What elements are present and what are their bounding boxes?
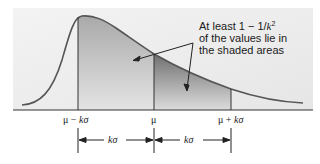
interval-right-sigma: σ xyxy=(188,134,193,145)
interval-markers xyxy=(78,128,231,153)
interval-label-left: kσ xyxy=(108,134,117,145)
chebyshev-diagram: At least 1 − 1/k2 of the values lie in t… xyxy=(0,0,320,164)
callout-line-3: the shaded areas xyxy=(199,44,287,56)
callout-text: At least 1 − 1/k2 of the values lie in t… xyxy=(199,20,287,56)
callout-line-1: At least 1 − 1/k2 xyxy=(199,20,287,32)
label-right-sigma: σ xyxy=(238,114,243,125)
interval-left-sigma: σ xyxy=(112,134,117,145)
label-mu: μ xyxy=(151,114,156,125)
callout-exponent: 2 xyxy=(271,20,275,27)
label-right-prefix: μ + xyxy=(218,114,234,125)
label-left-prefix: μ − xyxy=(63,114,79,125)
callout-line-1-prefix: At least 1 − 1/ xyxy=(199,20,267,32)
callout-line-2: of the values lie in xyxy=(199,32,287,44)
interval-label-right: kσ xyxy=(184,134,193,145)
label-left-sigma: σ xyxy=(83,114,88,125)
label-mu-minus-ksigma: μ − kσ xyxy=(63,114,88,125)
label-mu-plus-ksigma: μ + kσ xyxy=(218,114,243,125)
